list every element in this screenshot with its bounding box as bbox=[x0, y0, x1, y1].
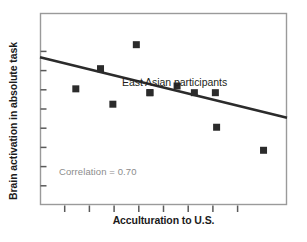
data-point bbox=[191, 89, 198, 96]
x-axis-ticks bbox=[65, 206, 238, 213]
data-point bbox=[260, 147, 267, 154]
y-axis-label-wrap: Brain activation in absolute task bbox=[2, 0, 24, 242]
data-point bbox=[146, 89, 153, 96]
data-point bbox=[213, 124, 220, 131]
data-point bbox=[109, 101, 116, 108]
data-point bbox=[72, 85, 79, 92]
data-point bbox=[133, 41, 140, 48]
data-point bbox=[97, 65, 104, 72]
plot-svg bbox=[0, 0, 307, 242]
scatter-plot-figure: Brain activation in absolute task Accult… bbox=[0, 0, 307, 242]
group-label-annotation: East Asian participants bbox=[122, 76, 227, 88]
x-axis-label: Acculturation to U.S. bbox=[40, 214, 287, 226]
correlation-annotation: Correlation = 0.70 bbox=[59, 166, 137, 177]
data-point bbox=[212, 89, 219, 96]
y-axis-label: Brain activation in absolute task bbox=[2, 0, 24, 242]
